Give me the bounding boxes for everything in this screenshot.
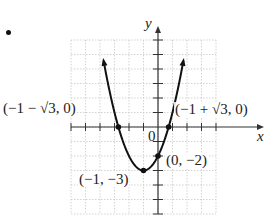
y-intercept-label: (0, −2) xyxy=(165,153,208,168)
left-root-label: (−1 − √3, 0) xyxy=(2,101,77,116)
right-root-label: (−1 + √3, 0) xyxy=(174,102,249,117)
origin-label: 0 xyxy=(147,129,157,144)
vertex-label: (−1, −3) xyxy=(78,172,129,187)
curve-left-arrow-icon xyxy=(102,58,108,66)
key-point xyxy=(141,168,147,174)
y-axis-arrow-icon xyxy=(155,26,161,33)
key-point xyxy=(166,124,172,130)
y-axis-label: y xyxy=(145,16,152,31)
curve-right-arrow-icon xyxy=(180,58,186,66)
x-axis-label: x xyxy=(257,129,264,144)
key-point xyxy=(155,153,161,159)
key-point xyxy=(116,124,122,130)
